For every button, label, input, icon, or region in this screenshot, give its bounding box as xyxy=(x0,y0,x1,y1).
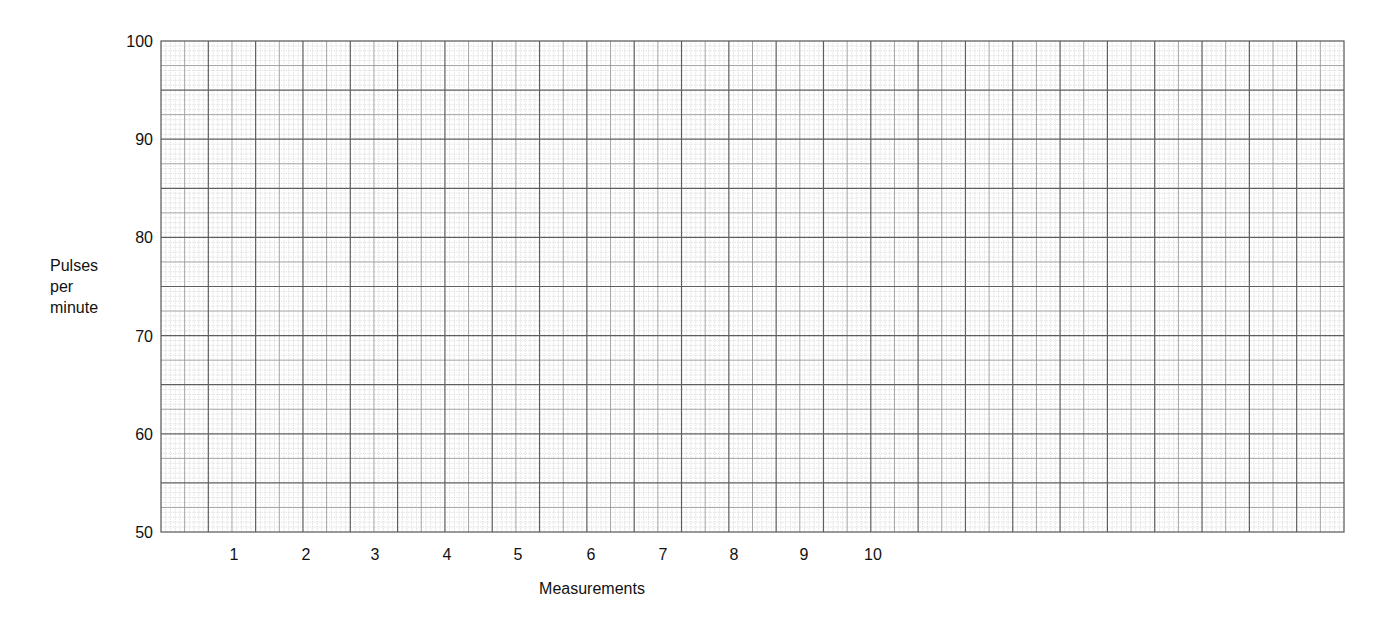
y-tick-90: 90 xyxy=(135,131,153,148)
y-axis-title-line-3: minute xyxy=(50,299,98,316)
x-tick-10: 10 xyxy=(864,546,882,563)
x-tick-8: 8 xyxy=(730,546,739,563)
x-tick-5: 5 xyxy=(514,546,523,563)
y-axis-title-line-2: per xyxy=(50,278,74,295)
x-tick-6: 6 xyxy=(587,546,596,563)
x-tick-9: 9 xyxy=(800,546,809,563)
y-tick-60: 60 xyxy=(135,426,153,443)
x-tick-7: 7 xyxy=(659,546,668,563)
x-tick-2: 2 xyxy=(302,546,311,563)
y-axis-tick-labels: 100 90 80 70 60 50 xyxy=(126,33,153,541)
y-tick-50: 50 xyxy=(135,524,153,541)
y-tick-70: 70 xyxy=(135,328,153,345)
pulse-chart: 100 90 80 70 60 50 1 2 3 4 5 6 7 8 9 10 … xyxy=(0,0,1394,624)
y-axis-title: Pulses per minute xyxy=(50,257,98,316)
x-axis-tick-labels: 1 2 3 4 5 6 7 8 9 10 xyxy=(230,546,882,563)
y-axis-title-line-1: Pulses xyxy=(50,257,98,274)
x-tick-4: 4 xyxy=(443,546,452,563)
x-axis-title: Measurements xyxy=(539,580,645,597)
x-tick-3: 3 xyxy=(371,546,380,563)
y-tick-100: 100 xyxy=(126,33,153,50)
x-tick-1: 1 xyxy=(230,546,239,563)
y-tick-80: 80 xyxy=(135,229,153,246)
